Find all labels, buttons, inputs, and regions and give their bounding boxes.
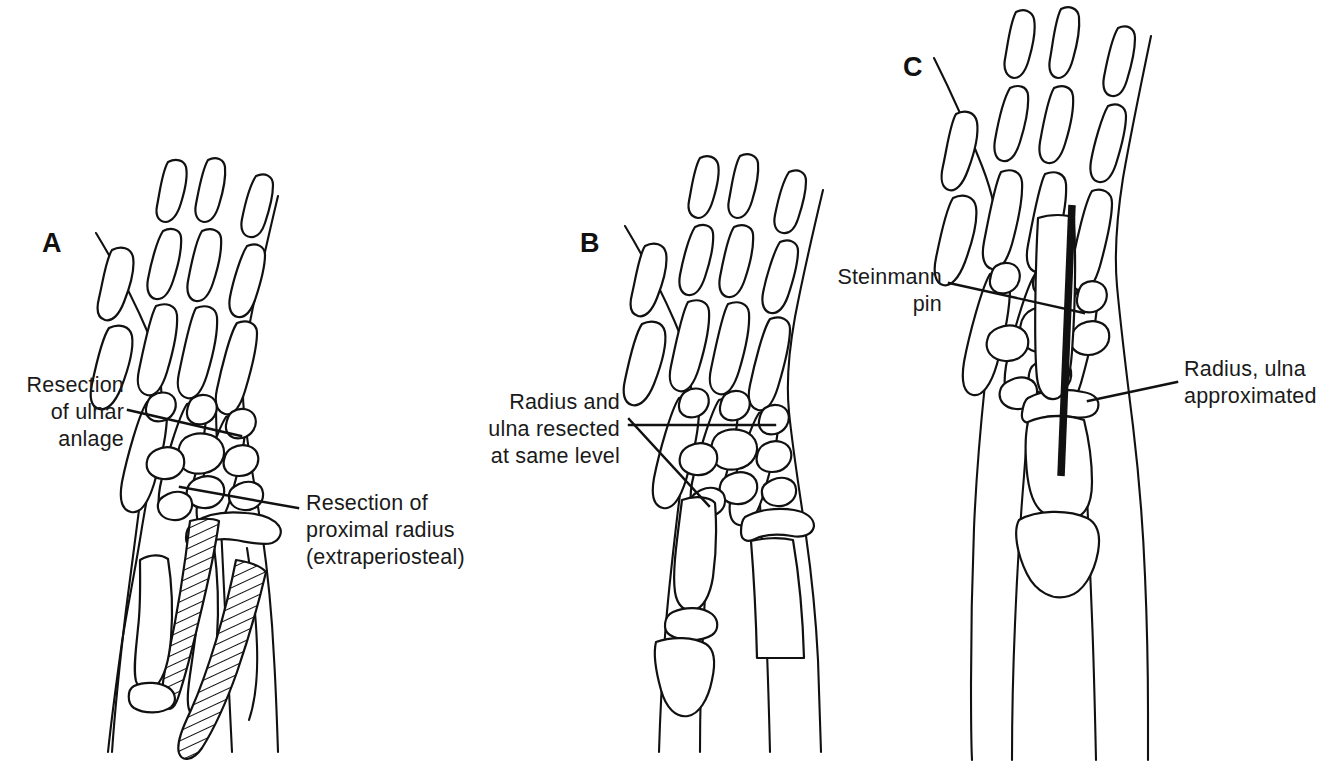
- panel-a-letter: A: [42, 228, 62, 258]
- panel-a-carpal-bones: [146, 393, 263, 521]
- label-line: of ulnar: [51, 400, 124, 424]
- medical-illustration-svg: A Resection of ulnar anlage Resection of…: [0, 0, 1326, 767]
- label-line: pin: [913, 292, 942, 316]
- label-line: ulna resected: [488, 417, 620, 441]
- label-line: Steinmann: [837, 265, 942, 289]
- label-line: Radius, ulna: [1184, 357, 1306, 381]
- label-line: anlage: [58, 427, 124, 451]
- figure-container: A Resection of ulnar anlage Resection of…: [0, 0, 1326, 767]
- label-line: proximal radius: [306, 518, 455, 542]
- label-line: Resection: [27, 373, 124, 397]
- label-line: approximated: [1184, 384, 1317, 408]
- label-line: Resection of: [306, 491, 428, 515]
- panel-c-letter: C: [903, 52, 923, 82]
- panel-b-resected-distal-radius-segment: [751, 538, 804, 658]
- panel-b-letter: B: [580, 228, 600, 258]
- label-line: Radius and: [509, 390, 620, 414]
- label-line: (extraperiosteal): [306, 545, 465, 569]
- label-line: at same level: [491, 444, 620, 468]
